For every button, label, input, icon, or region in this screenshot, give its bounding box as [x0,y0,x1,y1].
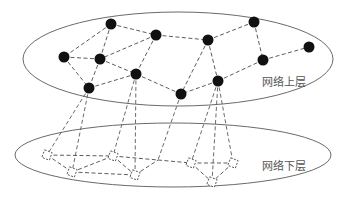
upper-edge [156,35,208,40]
interlayer-edges [47,74,233,182]
upper-edge [263,47,309,60]
upper-node-B [151,30,162,41]
lower-node-s5 [186,158,196,168]
interlayer-edge [158,94,181,160]
upper-node-D [95,54,106,65]
upper-edge [89,74,136,88]
upper-edge [64,24,111,57]
upper-edge [64,57,89,88]
upper-edge [136,35,156,74]
upper-edge [100,59,136,74]
upper-edge [218,60,263,81]
upper-node-A [106,19,117,30]
upper-node-E [131,69,142,80]
lower-node-s4 [130,170,140,180]
upper-node-F [84,83,95,94]
lower-node-s3 [108,151,118,161]
lower-edge [47,155,113,156]
upper-node-I [304,42,315,53]
upper-edge [254,22,263,60]
lower-node-s1 [42,150,52,160]
upper-node-J [258,55,269,66]
interlayer-edge [113,74,136,156]
upper-node-L [176,89,187,100]
interlayer-edge [135,74,136,175]
upper-node-H [249,17,260,28]
lower-node-s2 [67,167,77,177]
upper-edge [136,74,181,94]
interlayer-edge [218,81,233,163]
interlayer-edge [47,88,89,155]
upper-edge [208,40,218,81]
upper-edge [100,24,111,59]
interlayer-edge [191,81,218,163]
upper-edge [111,24,156,35]
upper-node-K [213,76,224,87]
lower-edge [158,160,191,163]
lower-edge [72,172,135,175]
upper-edge [100,35,156,59]
upper-node-G [203,35,214,46]
upper-node-C [59,52,70,63]
upper-layer-label: 网络上层 [262,75,306,89]
lower-node-s6 [228,158,238,168]
two-layer-network-diagram: 网络上层 网络下层 [0,0,345,198]
upper-edge [208,22,254,40]
lower-edge [72,156,113,172]
lower-layer-nodes [42,150,238,187]
lower-layer-label: 网络下层 [262,159,306,173]
